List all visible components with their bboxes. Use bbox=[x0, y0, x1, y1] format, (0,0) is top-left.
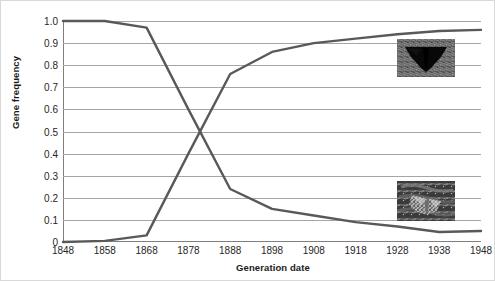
y-axis-tick-label: 0.1 bbox=[44, 214, 58, 225]
x-axis-tick-label: 1948 bbox=[470, 245, 492, 256]
x-axis-tick-label: 1858 bbox=[94, 245, 116, 256]
light-moth-image bbox=[397, 181, 455, 221]
y-axis-tick-label: 0.6 bbox=[44, 104, 58, 115]
dark-moth-photo bbox=[397, 39, 455, 77]
chart-figure: Gene frequency 1.00.90.80.70.60.50.40.30… bbox=[0, 0, 495, 281]
y-axis-tick-label: 0.5 bbox=[44, 126, 58, 137]
x-axis-tick-label: 1868 bbox=[135, 245, 157, 256]
y-axis-tick-label: 1.0 bbox=[44, 16, 58, 27]
x-axis-title: Generation date bbox=[63, 262, 483, 273]
x-axis-tick-label: 1908 bbox=[303, 245, 325, 256]
x-axis-tick-label: 1938 bbox=[428, 245, 450, 256]
dark-moth-image bbox=[397, 39, 455, 77]
x-axis-tick-label: 1848 bbox=[52, 245, 74, 256]
y-axis-tick-label: 0.8 bbox=[44, 60, 58, 71]
x-axis-tick-label: 1898 bbox=[261, 245, 283, 256]
plot-area: 1.00.90.80.70.60.50.40.30.20.10 18481858… bbox=[63, 21, 481, 242]
x-axis-tick-label: 1888 bbox=[219, 245, 241, 256]
y-axis-tick-label: 0.7 bbox=[44, 82, 58, 93]
x-axis-tick-label: 1928 bbox=[386, 245, 408, 256]
x-axis-tick-label: 1918 bbox=[344, 245, 366, 256]
y-axis-tick-label: 0.2 bbox=[44, 192, 58, 203]
y-axis-title: Gene frequency bbox=[10, 33, 21, 153]
y-axis-tick-label: 0.3 bbox=[44, 170, 58, 181]
y-axis-tick-label: 0.4 bbox=[44, 148, 58, 159]
y-axis-tick-label: 0.9 bbox=[44, 38, 58, 49]
x-axis-tick-label: 1878 bbox=[177, 245, 199, 256]
light-moth-photo bbox=[397, 181, 455, 221]
